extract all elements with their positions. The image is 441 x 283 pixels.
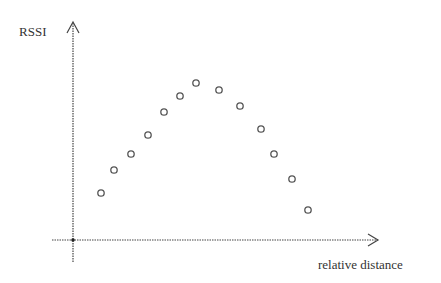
y-axis-label: RSSI: [19, 24, 46, 40]
scatter-plot: [0, 0, 441, 283]
y-axis: [67, 22, 79, 262]
data-point: [258, 126, 264, 132]
data-point: [216, 87, 222, 93]
data-point: [98, 190, 104, 196]
data-point: [271, 151, 277, 157]
x-axis: [52, 234, 378, 246]
data-point: [177, 93, 183, 99]
data-point: [289, 176, 295, 182]
data-point: [305, 207, 311, 213]
data-point: [237, 103, 243, 109]
data-point: [128, 151, 134, 157]
origin-dot: [71, 238, 75, 242]
data-point: [193, 80, 199, 86]
data-points: [98, 80, 311, 213]
data-point: [145, 132, 151, 138]
x-axis-label: relative distance: [318, 257, 403, 273]
data-point: [111, 167, 117, 173]
data-point: [161, 109, 167, 115]
